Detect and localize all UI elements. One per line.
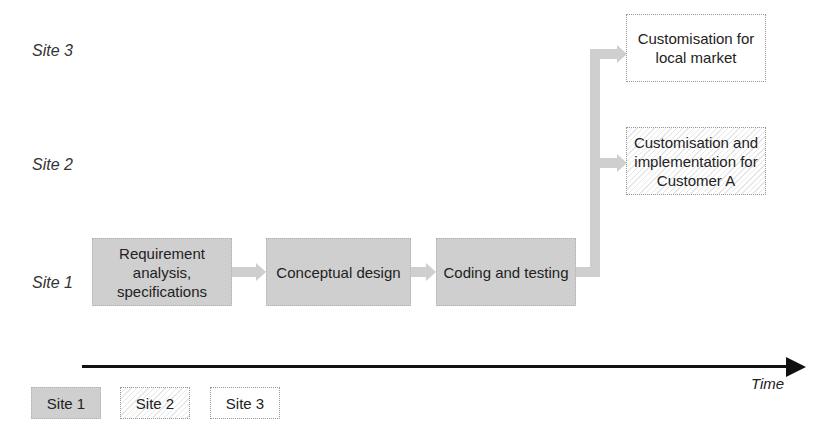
box-customisation-local-market: Customisation for local market bbox=[626, 14, 766, 82]
arrow-connector bbox=[595, 158, 617, 168]
legend-site-3: Site 3 bbox=[210, 387, 280, 419]
box-requirement-analysis: Requirement analysis, specifications bbox=[92, 238, 232, 306]
box-customisation-customer-a: Customisation and implementation for Cus… bbox=[626, 127, 766, 195]
time-axis-label: Time bbox=[751, 375, 784, 392]
box-conceptual-design: Conceptual design bbox=[266, 238, 411, 306]
row-label-site-2: Site 2 bbox=[32, 156, 73, 174]
arrow-connector bbox=[232, 267, 256, 277]
legend-site-2: Site 2 bbox=[120, 387, 190, 419]
arrow-connector bbox=[595, 49, 617, 59]
arrow-head-icon bbox=[256, 263, 266, 281]
arrow-head-icon bbox=[426, 263, 436, 281]
arrow-connector bbox=[411, 267, 426, 277]
box-coding-testing: Coding and testing bbox=[436, 238, 576, 306]
row-label-site-1: Site 1 bbox=[32, 274, 73, 292]
axis-arrow-icon bbox=[786, 357, 806, 377]
time-axis bbox=[82, 365, 788, 368]
legend-site-1: Site 1 bbox=[31, 387, 101, 419]
row-label-site-3: Site 3 bbox=[32, 42, 73, 60]
